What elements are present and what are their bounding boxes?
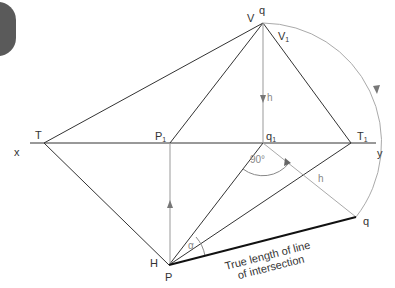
- rotation-arc: [263, 23, 382, 217]
- label-T: T: [35, 129, 42, 141]
- label-P: P: [165, 271, 172, 283]
- true-length-caption: True length of line of intersection: [224, 239, 315, 284]
- label-90-degrees: 90°: [250, 154, 265, 165]
- line-T-q: [44, 23, 263, 143]
- label-q1: q1: [266, 130, 276, 143]
- label-V1: V1: [278, 30, 289, 43]
- label-H: H: [150, 257, 158, 269]
- intersection-diagram: V q V1 h T x P1 q1 T1 y 90° h q H P α Tr…: [0, 0, 395, 288]
- line-q1-qbottom: [263, 143, 356, 217]
- label-y: y: [377, 147, 383, 159]
- label-q-bottom: q: [363, 215, 369, 227]
- label-h-vertical: h: [267, 92, 273, 103]
- label-alpha: α: [188, 240, 194, 251]
- line-q-T1: [263, 23, 351, 143]
- label-q-top: q: [259, 4, 265, 16]
- line-T-P: [44, 143, 169, 265]
- label-h-diagonal: h: [318, 173, 324, 184]
- label-T1: T1: [357, 130, 368, 143]
- line-P1-q: [170, 23, 263, 143]
- label-x: x: [14, 146, 20, 158]
- line-P-q1: [169, 143, 263, 265]
- label-V: V: [247, 12, 255, 24]
- arrow-down-h: [260, 95, 266, 103]
- arc-arrow: [373, 85, 380, 94]
- label-P1: P1: [155, 130, 166, 143]
- arrow-up-P1: [167, 200, 173, 208]
